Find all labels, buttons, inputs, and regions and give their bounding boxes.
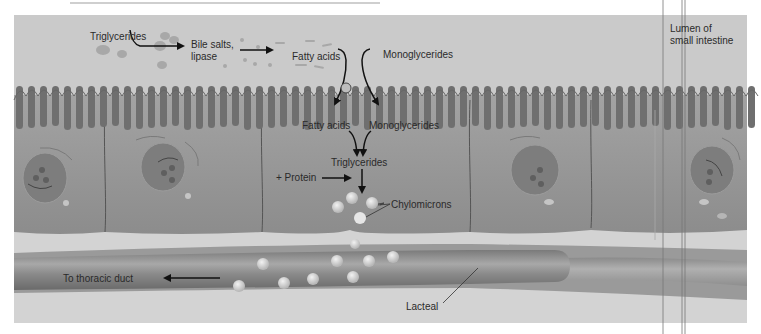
label-fatty-acids-lumen: Fatty acids: [292, 51, 340, 62]
glycerol-circle: [341, 83, 351, 93]
fat-absorption-diagram: Triglycerides Bile salts, lipase Fatty a…: [0, 0, 761, 334]
top-rule: [70, 2, 380, 4]
label-lumen-line1: Lumen of: [670, 23, 712, 34]
label-chylomicrons: Chylomicrons: [391, 199, 452, 210]
label-lacteal: Lacteal: [406, 301, 438, 312]
label-monoglycerides-lumen: Monoglycerides: [383, 49, 453, 60]
label-fatty-acids-cell: Fatty acids: [302, 120, 350, 131]
label-triglycerides-lumen: Triglycerides: [90, 31, 146, 42]
label-bile-salts: Bile salts,: [191, 39, 234, 50]
label-lumen-line2: small intestine: [670, 35, 734, 46]
label-protein: + Protein: [276, 172, 316, 183]
label-monoglycerides-cell: Monoglycerides: [369, 120, 439, 131]
label-triglycerides-cell: Triglycerides: [331, 157, 387, 168]
label-lipase: lipase: [191, 51, 218, 62]
label-thoracic-duct: To thoracic duct: [63, 273, 133, 284]
